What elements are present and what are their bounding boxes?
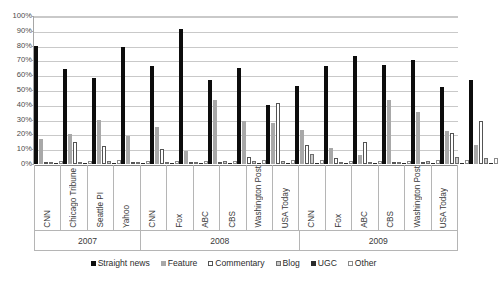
bar-group: [150, 16, 179, 164]
bar-ugc[interactable]: [54, 163, 58, 164]
bar-blog[interactable]: [107, 161, 111, 164]
bar-blog[interactable]: [455, 157, 459, 164]
legend-item-ugc[interactable]: UGC: [311, 258, 337, 268]
bar-straight-news[interactable]: [469, 80, 473, 164]
bar-ugc[interactable]: [199, 163, 203, 164]
bar-straight-news[interactable]: [121, 47, 125, 164]
category-label-cell: Yahoo: [113, 165, 139, 231]
bar-commentary[interactable]: [102, 146, 106, 164]
legend-item-other[interactable]: Other: [348, 258, 377, 268]
bar-blog[interactable]: [223, 161, 227, 164]
legend-item-straight-news[interactable]: Straight news: [91, 258, 150, 268]
bar-ugc[interactable]: [83, 163, 87, 164]
y-axis-tick-label: 30%: [1, 116, 32, 124]
bar-ugc[interactable]: [257, 163, 261, 164]
bar-blog[interactable]: [194, 162, 198, 164]
bar-feature[interactable]: [300, 130, 304, 164]
bar-ugc[interactable]: [431, 163, 435, 164]
bar-feature[interactable]: [242, 121, 246, 164]
bar-commentary[interactable]: [392, 162, 396, 164]
bar-feature[interactable]: [358, 155, 362, 164]
y-axis-tick-label: 50%: [1, 86, 32, 94]
bar-commentary[interactable]: [160, 149, 164, 164]
bar-feature[interactable]: [68, 134, 72, 164]
legend-item-feature[interactable]: Feature: [161, 258, 198, 268]
bar-commentary[interactable]: [276, 103, 280, 164]
bar-feature[interactable]: [271, 123, 275, 164]
bar-feature[interactable]: [97, 120, 101, 164]
bar-blog[interactable]: [136, 162, 140, 164]
bar-blog[interactable]: [78, 162, 82, 164]
bar-feature[interactable]: [387, 100, 391, 164]
bar-straight-news[interactable]: [237, 68, 241, 164]
bar-ugc[interactable]: [170, 163, 174, 164]
legend-item-commentary[interactable]: Commentary: [208, 258, 264, 268]
bar-commentary[interactable]: [247, 157, 251, 164]
bar-ugc[interactable]: [489, 163, 493, 164]
bar-blog[interactable]: [339, 162, 343, 164]
bar-commentary[interactable]: [44, 162, 48, 164]
bar-commentary[interactable]: [421, 162, 425, 164]
bar-straight-news[interactable]: [63, 69, 67, 164]
bar-commentary[interactable]: [334, 158, 338, 164]
bar-ugc[interactable]: [286, 163, 290, 164]
bar-commentary[interactable]: [450, 133, 454, 164]
bar-feature[interactable]: [39, 139, 43, 164]
year-label-2008: 2008: [140, 231, 299, 251]
bar-ugc[interactable]: [460, 163, 464, 164]
bar-feature[interactable]: [184, 151, 188, 164]
bar-feature[interactable]: [329, 148, 333, 164]
bar-commentary[interactable]: [479, 121, 483, 164]
bar-group: [208, 16, 237, 164]
bar-commentary[interactable]: [73, 142, 77, 164]
bar-straight-news[interactable]: [295, 86, 299, 164]
bar-straight-news[interactable]: [208, 80, 212, 164]
bar-other[interactable]: [494, 158, 498, 164]
bar-ugc[interactable]: [228, 163, 232, 164]
bar-blog[interactable]: [252, 161, 256, 164]
y-axis-tick-label: 40%: [1, 101, 32, 109]
bar-commentary[interactable]: [131, 162, 135, 164]
bar-feature[interactable]: [213, 100, 217, 164]
bar-straight-news[interactable]: [92, 78, 96, 164]
category-label-cell: CBS: [219, 165, 245, 231]
bar-commentary[interactable]: [363, 142, 367, 164]
bar-feature[interactable]: [155, 127, 159, 164]
bar-feature[interactable]: [445, 131, 449, 164]
category-label: CBS: [228, 211, 237, 228]
bar-blog[interactable]: [281, 161, 285, 164]
bar-blog[interactable]: [49, 162, 53, 164]
bar-commentary[interactable]: [305, 145, 309, 164]
legend-item-blog[interactable]: Blog: [276, 258, 300, 268]
bar-straight-news[interactable]: [411, 60, 415, 164]
year-axis: 200720082009: [34, 231, 458, 251]
bar-group: [295, 16, 324, 164]
bar-commentary[interactable]: [218, 162, 222, 164]
bar-straight-news[interactable]: [150, 66, 154, 164]
bar-blog[interactable]: [397, 162, 401, 164]
bar-ugc[interactable]: [315, 163, 319, 164]
bar-ugc[interactable]: [112, 163, 116, 164]
bar-ugc[interactable]: [344, 163, 348, 164]
bar-ugc[interactable]: [373, 163, 377, 164]
bar-blog[interactable]: [310, 154, 314, 164]
bar-feature[interactable]: [416, 112, 420, 164]
bar-blog[interactable]: [426, 161, 430, 164]
y-axis-tick-label: 100%: [1, 12, 32, 20]
bar-feature[interactable]: [126, 136, 130, 164]
bar-blog[interactable]: [165, 162, 169, 164]
bar-straight-news[interactable]: [382, 65, 386, 164]
bar-straight-news[interactable]: [324, 66, 328, 164]
bar-straight-news[interactable]: [179, 29, 183, 164]
bar-group: [34, 16, 63, 164]
bar-feature[interactable]: [474, 145, 478, 164]
bar-straight-news[interactable]: [353, 56, 357, 164]
bar-ugc[interactable]: [141, 163, 145, 164]
bar-straight-news[interactable]: [266, 105, 270, 164]
bar-straight-news[interactable]: [34, 46, 38, 164]
bar-commentary[interactable]: [189, 162, 193, 164]
bar-blog[interactable]: [484, 158, 488, 164]
bar-straight-news[interactable]: [440, 87, 444, 164]
bar-ugc[interactable]: [402, 163, 406, 164]
bar-blog[interactable]: [368, 162, 372, 164]
